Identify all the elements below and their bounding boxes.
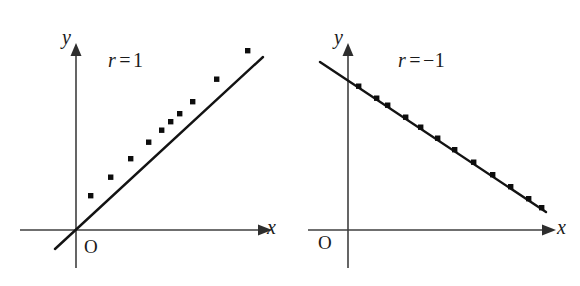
data-point: [374, 96, 379, 101]
scatter-panel-positive-correlation: y x O r=1: [0, 0, 290, 286]
y-axis-arrowhead-right: [343, 43, 354, 56]
data-point: [128, 156, 133, 161]
data-point: [245, 48, 250, 53]
data-point: [159, 128, 164, 133]
data-point: [418, 125, 423, 130]
y-axis-label-right: y: [334, 27, 343, 47]
x-axis-arrowhead-right: [542, 225, 556, 236]
origin-label-right: O: [318, 233, 332, 252]
x-axis-label-left: x: [267, 217, 276, 237]
data-point: [508, 184, 513, 189]
data-point: [471, 160, 476, 165]
correlation-annotation-left: r=1: [108, 50, 144, 70]
data-point: [539, 205, 544, 210]
data-point: [452, 147, 457, 152]
data-point: [356, 84, 361, 89]
correlation-symbol: r: [398, 49, 409, 71]
data-point: [526, 196, 531, 201]
y-axis-label-left: y: [62, 27, 71, 47]
equals-sign: =: [119, 49, 133, 71]
data-point: [214, 77, 219, 82]
data-point: [385, 103, 390, 108]
data-point: [108, 175, 113, 180]
correlation-symbol: r: [108, 49, 119, 71]
data-point: [146, 140, 151, 145]
correlation-annotation-right: r=−1: [398, 50, 445, 70]
plot-canvas-left: [0, 0, 290, 286]
equals-sign: =: [409, 49, 423, 71]
y-axis-arrowhead-left: [71, 43, 82, 56]
correlation-value: −1: [423, 49, 445, 71]
data-point: [490, 172, 495, 177]
x-axis-label-right: x: [557, 217, 566, 237]
data-point: [168, 119, 173, 124]
trend-line-right: [320, 62, 546, 212]
data-point: [403, 115, 408, 120]
data-point: [177, 111, 182, 116]
correlation-value: 1: [133, 49, 144, 71]
origin-label-left: O: [84, 237, 98, 256]
correlation-figure: y x O r=1: [0, 0, 580, 286]
trend-line-left: [55, 57, 263, 249]
scatter-panel-negative-correlation: y x O r=−1: [290, 0, 580, 286]
data-point: [88, 193, 93, 198]
data-point: [190, 99, 195, 104]
data-point: [435, 136, 440, 141]
